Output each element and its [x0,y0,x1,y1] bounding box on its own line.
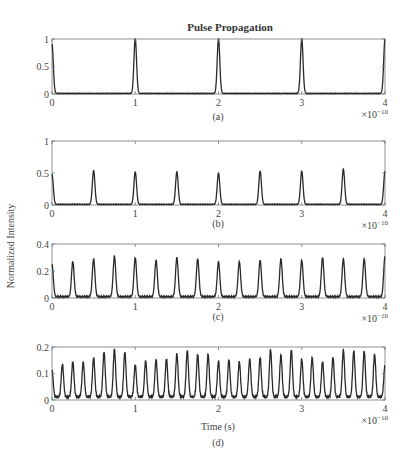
x-tick-label: 4 [383,208,388,219]
x-tick-label: 4 [383,403,388,414]
panel-caption: (c) [212,311,223,323]
x-tick-label: 1 [133,97,138,108]
panel-c: 0123400.20.4×10−10(c) [37,239,389,325]
x-exponent-label: ×10−10 [361,219,388,231]
y-tick-label: 1 [44,34,49,45]
x-tick-label: 3 [299,403,304,414]
panel-a: 0123400.51×10−10(a) [37,34,389,124]
panel-caption: (a) [212,111,223,123]
x-axis-label: Time (s) [201,421,235,433]
x-exponent-label: ×10−10 [361,108,388,120]
intensity-trace [52,349,385,398]
x-tick-label: 4 [383,97,388,108]
y-axis-label: Normalized Intensity [5,204,16,289]
y-tick-label: 0.2 [37,266,50,277]
x-tick-label: 3 [299,208,304,219]
y-tick-label: 0.1 [37,368,50,379]
x-tick-label: 0 [50,403,55,414]
figure-title: Pulse Propagation [187,21,273,33]
x-tick-label: 0 [50,208,55,219]
y-tick-label: 0.2 [37,342,50,353]
plot-frame [52,39,385,94]
y-tick-label: 0.5 [37,168,50,179]
intensity-trace [52,169,385,205]
y-tick-label: 0 [44,200,49,211]
panel-caption: (d) [212,437,224,449]
y-tick-label: 0 [44,293,49,304]
x-tick-label: 1 [133,403,138,414]
x-tick-label: 0 [50,301,55,312]
x-tick-label: 2 [216,403,221,414]
panels-group: 0123400.51×10−10(a)0123400.51×10−10(b)01… [37,34,389,450]
x-tick-label: 0 [50,97,55,108]
x-tick-label: 1 [133,301,138,312]
y-tick-label: 0.5 [37,61,50,72]
panel-caption: (b) [212,218,224,230]
x-tick-label: 3 [299,301,304,312]
pulse-propagation-figure: Pulse Propagation Normalized Intensity 0… [0,0,410,473]
plot-frame [52,244,385,298]
panel-d: 0123400.10.2×10−10(d) [37,342,389,450]
x-tick-label: 2 [216,97,221,108]
y-tick-label: 0 [44,395,49,406]
y-tick-label: 1 [44,136,49,147]
x-tick-label: 1 [133,208,138,219]
panel-b: 0123400.51×10−10(b) [37,136,389,232]
x-tick-label: 3 [299,97,304,108]
intensity-trace [52,39,385,94]
x-exponent-label: ×10−10 [361,312,388,324]
y-tick-label: 0 [44,89,49,100]
y-tick-label: 0.4 [37,239,50,250]
x-tick-label: 4 [383,301,388,312]
x-exponent-label: ×10−10 [361,414,388,426]
intensity-trace [52,256,385,297]
